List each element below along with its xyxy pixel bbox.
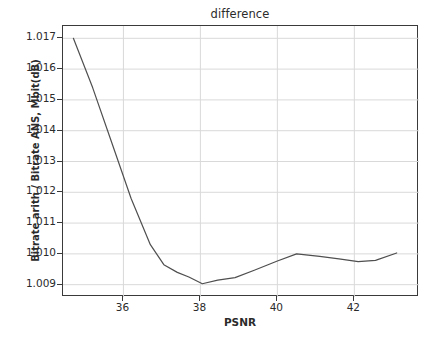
y-axis-tickmark bbox=[57, 253, 62, 254]
y-axis-tickmark bbox=[57, 68, 62, 69]
y-axis-tick-label: 1.017 bbox=[12, 30, 56, 42]
y-axis-tickmark bbox=[57, 161, 62, 162]
y-axis-tickmark bbox=[57, 191, 62, 192]
chart-title: difference bbox=[62, 7, 418, 21]
x-axis-tick-label: 38 bbox=[179, 301, 219, 313]
y-axis-tickmark bbox=[57, 130, 62, 131]
y-axis-tick-label: 1.015 bbox=[12, 92, 56, 104]
x-axis-tickmark bbox=[199, 296, 200, 301]
grid-lines-horizontal bbox=[63, 38, 419, 284]
y-axis-tick-label: 1.010 bbox=[12, 246, 56, 258]
x-axis-label: PSNR bbox=[62, 316, 418, 328]
x-axis-tickmark bbox=[276, 296, 277, 301]
plot-svg bbox=[63, 26, 419, 297]
y-axis-tick-label: 1.016 bbox=[12, 61, 56, 73]
y-axis-tickmark bbox=[57, 284, 62, 285]
chart-figure: difference Bitrate arith / Bitrate ANS, … bbox=[0, 0, 436, 341]
x-axis-tickmark bbox=[122, 296, 123, 301]
y-axis-tickmark bbox=[57, 37, 62, 38]
y-axis-tick-label: 1.009 bbox=[12, 277, 56, 289]
x-axis-tick-label: 36 bbox=[102, 301, 142, 313]
y-axis-tickmark bbox=[57, 222, 62, 223]
y-axis-tick-labels: 1.0091.0101.0111.0121.0131.0141.0151.016… bbox=[6, 0, 56, 341]
y-axis-tickmark bbox=[57, 99, 62, 100]
x-axis-tick-label: 42 bbox=[333, 301, 373, 313]
y-axis-tick-label: 1.013 bbox=[12, 154, 56, 166]
plot-area bbox=[62, 25, 418, 296]
x-axis-tick-label: 40 bbox=[256, 301, 296, 313]
y-axis-tick-label: 1.014 bbox=[12, 123, 56, 135]
x-axis-tickmark bbox=[353, 296, 354, 301]
y-axis-tick-label: 1.011 bbox=[12, 215, 56, 227]
y-axis-tick-label: 1.012 bbox=[12, 184, 56, 196]
